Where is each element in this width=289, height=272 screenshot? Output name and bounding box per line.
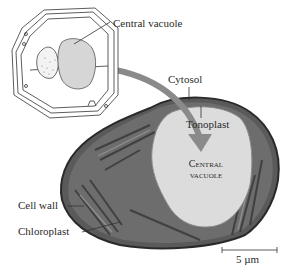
label-cell-wall: Cell wall (18, 199, 58, 211)
nucleus (37, 47, 59, 78)
label-scale-bar: 5 µm (236, 253, 259, 265)
label-tonoplast: Tonoplast (186, 118, 229, 130)
label-cytosol: Cytosol (168, 73, 202, 85)
label-central-vacuole-inner: Central vacuole (178, 158, 234, 180)
micrograph-cell (61, 98, 279, 249)
label-chloroplast: Chloroplast (18, 225, 69, 237)
schematic-vacuole (58, 39, 96, 89)
label-central-vacuole: Central vacuole (113, 17, 182, 29)
